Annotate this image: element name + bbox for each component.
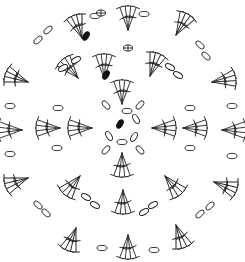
- crochet-chart: [0, 0, 245, 262]
- double-crochet-cluster-icon: [112, 190, 135, 214]
- double-crochet-cluster-icon: [111, 153, 134, 177]
- chain-stitch-icon: [135, 144, 145, 155]
- chain-stitch-icon: [52, 145, 62, 150]
- chain-stitch-icon: [147, 200, 158, 210]
- chain-stitch-icon: [185, 105, 195, 110]
- double-crochet-cluster-icon: [117, 235, 140, 259]
- chain-stitch-icon: [131, 113, 141, 124]
- chain-stitch-icon: [204, 201, 215, 211]
- chain-stitch-icon: [104, 130, 114, 141]
- double-crochet-cluster-icon: [165, 221, 195, 252]
- chain-stitch-icon: [164, 62, 175, 72]
- chain-stitch-icon: [89, 200, 100, 210]
- chain-stitch-icon: [101, 99, 111, 110]
- chain-stitch-icon: [80, 192, 91, 202]
- double-crochet-cluster-icon: [1, 167, 32, 197]
- chain-stitch-icon: [97, 245, 107, 250]
- chain-stitch-icon: [40, 208, 51, 218]
- chain-stitch-icon: [135, 99, 145, 110]
- double-crochet-cluster-icon: [57, 224, 87, 255]
- chain-stitch-icon: [129, 131, 139, 142]
- chain-stitch-icon: [5, 103, 15, 108]
- chain-stitch-icon: [122, 108, 132, 113]
- double-crochet-cluster-icon: [68, 117, 92, 140]
- chain-stitch-icon: [117, 139, 127, 144]
- chain-stitch-icon: [227, 153, 237, 158]
- chain-stitch-icon: [32, 35, 43, 45]
- double-crochet-cluster-icon: [1, 63, 32, 93]
- chain-stitch-icon: [138, 207, 149, 217]
- chain-stitch-icon: [194, 40, 205, 50]
- chain-stitch-icon: [53, 105, 63, 110]
- chain-stitch-icon: [227, 103, 237, 108]
- chain-stitch-icon: [42, 25, 53, 35]
- round-1: [104, 108, 141, 144]
- chain-stitch-icon: [185, 145, 195, 150]
- double-crochet-cluster-icon: [222, 119, 245, 142]
- slip-stitch-icon: [115, 119, 124, 130]
- double-crochet-cluster-icon: [156, 169, 189, 202]
- chain-stitch-icon: [32, 200, 43, 210]
- round-3: [36, 49, 207, 216]
- double-crochet-cluster-icon: [0, 119, 22, 142]
- chain-stitch-icon: [5, 151, 15, 156]
- double-crochet-cluster-icon: [210, 66, 238, 93]
- magic-ring-marker-icon: [97, 10, 106, 16]
- chain-stitch-icon: [194, 209, 205, 219]
- slip-stitch-icon: [81, 31, 90, 42]
- chain-stitch-icon: [172, 70, 183, 80]
- chain-stitch-icon: [101, 144, 111, 155]
- magic-ring-marker-icon: [124, 45, 133, 51]
- double-crochet-cluster-icon: [117, 6, 140, 30]
- double-crochet-cluster-icon: [111, 80, 134, 104]
- chain-stitch-icon: [200, 51, 211, 61]
- chain-stitch-icon: [139, 11, 149, 16]
- double-crochet-cluster-icon: [139, 49, 169, 80]
- double-crochet-cluster-icon: [36, 117, 60, 140]
- chain-stitch-icon: [149, 247, 159, 252]
- chain-stitch-icon: [70, 55, 81, 65]
- double-crochet-cluster-icon: [166, 8, 198, 40]
- double-crochet-cluster-icon: [152, 117, 176, 140]
- double-crochet-cluster-icon: [183, 117, 207, 140]
- double-crochet-cluster-icon: [210, 171, 241, 201]
